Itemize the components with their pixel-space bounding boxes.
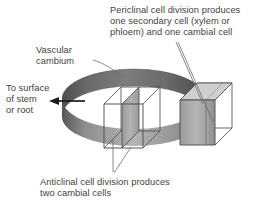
to-surface-label: To surface of stem or root — [6, 83, 49, 117]
vascular-cambium-label: Vascular cambium — [36, 45, 74, 67]
to-surface-arrow-head — [49, 97, 59, 105]
anticlinal-leader-line-2 — [114, 147, 131, 173]
periclinal-dividing-cell — [180, 83, 232, 145]
periclinal-caption: Periclinal cell division produces one se… — [110, 5, 240, 39]
left-cell-edge-tl — [104, 87, 121, 104]
figure-canvas: Periclinal cell division produces one se… — [0, 0, 271, 207]
anticlinal-caption: Anticlinal cell division produces two ca… — [40, 177, 170, 199]
right-cell-front-face — [180, 100, 215, 145]
right-cell-edge-br — [215, 128, 232, 145]
